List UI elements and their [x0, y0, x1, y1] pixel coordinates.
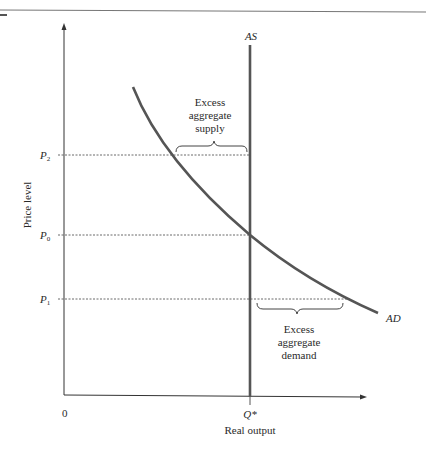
p2-label: P2: [39, 149, 51, 163]
as-ad-diagram: AS AD Excess aggregate supply Excess agg…: [0, 0, 426, 458]
p1-label: P1: [39, 293, 51, 307]
x-axis: [64, 395, 362, 397]
corner-mark: [0, 14, 7, 16]
excess-demand-line3: demand: [282, 349, 317, 361]
excess-supply-line3: supply: [195, 122, 225, 134]
excess-supply-brace: [176, 141, 247, 152]
excess-demand-line2: aggregate: [278, 336, 321, 348]
excess-supply-line2: aggregate: [189, 109, 232, 121]
y-axis-label: Price level: [21, 182, 33, 229]
ad-label: AD: [385, 312, 401, 324]
excess-demand-line1: Excess: [284, 323, 315, 335]
y-axis-arrow-icon: [62, 23, 67, 30]
origin-label: 0: [62, 407, 68, 419]
top-rule: [0, 10, 426, 12]
as-label: AS: [244, 30, 258, 42]
x-axis-label: Real output: [224, 424, 275, 436]
excess-demand-brace: [257, 303, 343, 314]
p0-label: P0: [39, 229, 51, 243]
x-axis-arrow-icon: [360, 395, 367, 400]
excess-supply-line1: Excess: [195, 96, 226, 108]
ad-curve: [133, 87, 378, 313]
q-star-label: Q*: [243, 408, 257, 420]
